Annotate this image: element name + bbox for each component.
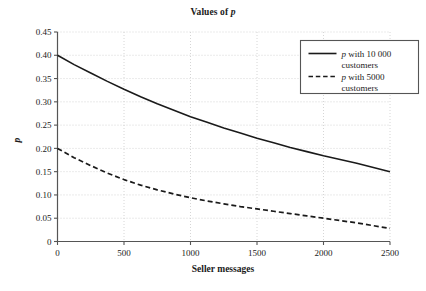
legend-label-line1[interactable]: p with 10 000 xyxy=(341,49,392,59)
y-tick-label: 0.30 xyxy=(36,97,52,107)
chart-plot-area: 00.050.100.150.200.250.300.350.400.45 05… xyxy=(0,0,426,291)
legend-label-line1[interactable]: p with 5000 xyxy=(341,72,386,82)
x-tick-label: 2000 xyxy=(315,248,334,258)
y-tick-label: 0.20 xyxy=(36,144,52,154)
chart-figure: Values of p 00.050.100.150.200.250.300.3… xyxy=(0,0,426,291)
x-tick-label: 500 xyxy=(117,248,131,258)
x-axis-ticks-group: 05001000150020002500 xyxy=(55,242,399,258)
x-tick-label: 2500 xyxy=(381,248,400,258)
y-axis-title: p xyxy=(12,137,22,143)
y-tick-label: 0.35 xyxy=(36,74,52,84)
y-axis-ticks-group: 00.050.100.150.200.250.300.350.400.45 xyxy=(36,27,58,247)
y-tick-label: 0.45 xyxy=(36,27,52,37)
y-tick-label: 0.25 xyxy=(36,120,52,130)
y-tick-label: 0.40 xyxy=(36,50,52,60)
y-tick-label: 0.15 xyxy=(36,167,52,177)
x-axis-title: Seller messages xyxy=(192,264,255,274)
x-tick-label: 1000 xyxy=(182,248,201,258)
y-tick-label: 0 xyxy=(47,237,52,247)
y-tick-label: 0.05 xyxy=(36,213,52,223)
x-tick-label: 1500 xyxy=(248,248,267,258)
legend[interactable]: p with 10 000customersp with 5000custome… xyxy=(301,41,419,94)
y-tick-label: 0.10 xyxy=(36,190,52,200)
x-tick-label: 0 xyxy=(55,248,60,258)
legend-label-line2[interactable]: customers xyxy=(342,60,379,70)
legend-label-line2[interactable]: customers xyxy=(342,83,379,93)
series-line-2 xyxy=(58,148,391,228)
